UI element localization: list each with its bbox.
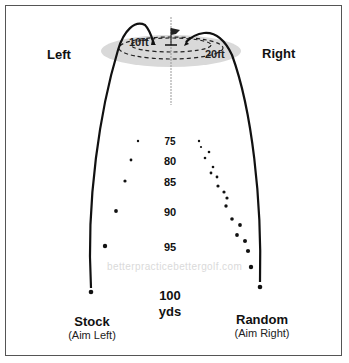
stock-subtitle: (Aim Left)	[68, 329, 116, 341]
random-title: Random	[234, 312, 289, 327]
final-yardage: 100 yds	[159, 288, 181, 320]
random-subtitle: (Aim Right)	[234, 327, 289, 339]
ring-10ft-label: 10ft	[129, 36, 149, 48]
final-yardage-number: 100	[159, 288, 181, 304]
stock-caption: Stock (Aim Left)	[68, 314, 116, 341]
random-caption: Random (Aim Right)	[234, 312, 289, 339]
stock-title: Stock	[68, 314, 116, 329]
final-yardage-unit: yds	[159, 304, 181, 320]
yardage-85: 85	[164, 176, 176, 188]
random-shot-trajectory	[186, 33, 260, 282]
right-label: Right	[262, 46, 295, 61]
watermark: betterpracticebettergolf.com	[107, 261, 242, 272]
yardage-80: 80	[164, 155, 176, 167]
yardage-95: 95	[164, 241, 176, 253]
yardage-75: 75	[164, 136, 175, 147]
left-label: Left	[47, 47, 71, 62]
ring-20ft-label: 20ft	[205, 48, 225, 60]
yardage-90: 90	[164, 206, 176, 218]
